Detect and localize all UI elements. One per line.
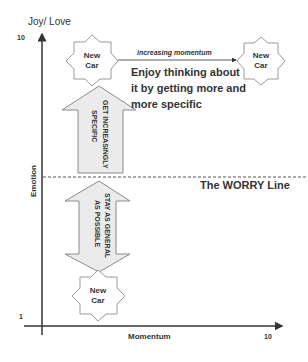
up-arrow-text-1: GET INCREASINGLY — [102, 100, 109, 169]
y-tick-1: 1 — [19, 313, 23, 320]
y-tick-10: 10 — [17, 34, 25, 41]
x-axis-label: Momentum — [128, 332, 171, 341]
enjoy-text-line1: Enjoy thinking about — [131, 66, 240, 78]
up-arrow-text-2: SPECIFIC — [91, 110, 98, 142]
y-axis-side-label: Emotion — [29, 165, 38, 197]
worry-line-label: The WORRY Line — [200, 179, 290, 191]
x-tick-10: 10 — [264, 333, 272, 340]
momentum-arrow-label: increasing momentum — [137, 49, 212, 57]
up-arrow-shape — [62, 86, 136, 173]
diagram-canvas: Joy/ Love 10 1 Emotion Momentum 10 The W… — [0, 0, 308, 362]
enjoy-text-line2: it by getting more and — [131, 82, 246, 94]
double-arrow-text-2: AS POSSIBLE — [94, 200, 101, 247]
y-axis-top-label: Joy/ Love — [28, 16, 71, 27]
star-bottom-line2: Car — [91, 296, 104, 305]
star-top-right-line2: Car — [254, 61, 267, 70]
double-arrow-text-1: STAY AS GENERAL — [104, 193, 111, 259]
enjoy-text-line3: more specific — [131, 98, 202, 110]
star-top-left-line2: Car — [85, 61, 98, 70]
star-top-left-line1: New — [84, 51, 101, 60]
star-top-right-line1: New — [253, 51, 270, 60]
star-bottom-line1: New — [90, 286, 107, 295]
